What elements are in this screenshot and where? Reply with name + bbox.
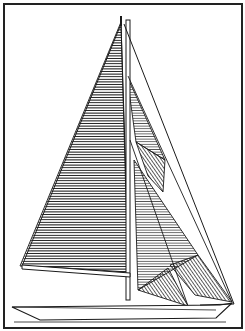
mast (126, 20, 130, 300)
mainsail-outline (22, 24, 129, 274)
hull (12, 303, 232, 320)
sail-plan-drawing (0, 0, 245, 331)
